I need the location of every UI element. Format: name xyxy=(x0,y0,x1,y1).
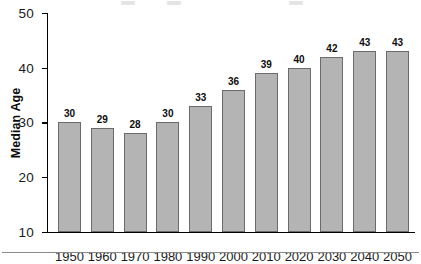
bar-rect xyxy=(386,51,409,231)
bar-value-label: 39 xyxy=(261,59,272,70)
bar-value-label: 28 xyxy=(130,119,141,130)
bar-rect xyxy=(156,122,179,231)
bar-item: 43 xyxy=(353,12,376,232)
y-tick-mark: 10 xyxy=(42,232,47,233)
y-tick-mark: 30 xyxy=(42,122,47,123)
bar-value-label: 42 xyxy=(326,43,337,54)
footer-divider xyxy=(2,252,419,253)
bar-item: 30 xyxy=(58,12,81,232)
bar-rect xyxy=(124,133,147,231)
bar-rect xyxy=(222,90,245,232)
bar-item: 28 xyxy=(124,12,147,232)
y-tick-mark: 50 xyxy=(42,13,47,14)
bar-rect xyxy=(353,51,376,231)
cropped-title-artifact xyxy=(60,1,360,5)
bar-rect xyxy=(91,128,114,232)
bar-item: 36 xyxy=(222,12,245,232)
bar-rect xyxy=(320,57,343,232)
y-tick-label: 30 xyxy=(19,115,34,130)
bar-item: 43 xyxy=(386,12,409,232)
y-tick-label: 50 xyxy=(19,6,34,21)
y-tick-mark: 20 xyxy=(42,177,47,178)
bar-value-label: 36 xyxy=(228,76,239,87)
bar-rect xyxy=(189,106,212,232)
bar-item: 33 xyxy=(189,12,212,232)
y-tick-mark: 40 xyxy=(42,68,47,69)
bar-item: 30 xyxy=(156,12,179,232)
median-age-bar-chart: Median Age 1020304050 302928303336394042… xyxy=(0,0,421,264)
bar-rect xyxy=(58,122,81,231)
y-tick-label: 10 xyxy=(19,224,34,239)
bar-item: 42 xyxy=(320,12,343,232)
bar-value-label: 43 xyxy=(359,37,370,48)
plot-area: 1020304050 3029283033363940424343 195019… xyxy=(47,13,415,233)
bar-rect xyxy=(288,68,311,232)
x-axis-line xyxy=(47,232,415,233)
bar-value-label: 40 xyxy=(294,54,305,65)
y-tick-label: 20 xyxy=(19,169,34,184)
bar-item: 39 xyxy=(255,12,278,232)
y-tick-label: 40 xyxy=(19,60,34,75)
bar-value-label: 30 xyxy=(64,108,75,119)
bar-item: 29 xyxy=(91,12,114,232)
bar-value-label: 43 xyxy=(392,37,403,48)
bar-item: 40 xyxy=(288,12,311,232)
bar-value-label: 33 xyxy=(195,92,206,103)
y-axis-line xyxy=(47,13,48,233)
bar-value-label: 30 xyxy=(162,108,173,119)
bar-value-label: 29 xyxy=(97,114,108,125)
bar-rect xyxy=(255,73,278,231)
